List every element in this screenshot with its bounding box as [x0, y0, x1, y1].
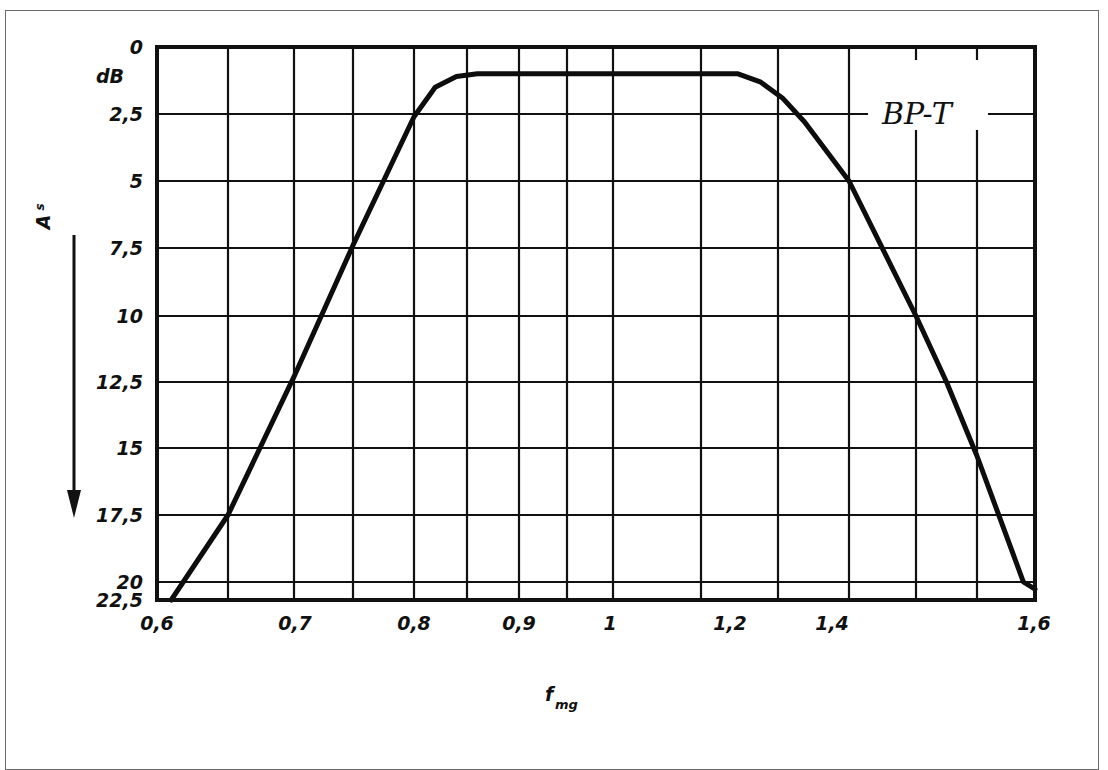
y-axis-label: A s — [32, 203, 54, 231]
x-tick-label: 0,8 — [397, 612, 431, 634]
y-tick-label: 0 — [130, 36, 143, 58]
x-axis-label-sub: mg — [555, 697, 578, 712]
y-direction-arrow-icon — [67, 235, 81, 518]
legend-label: BP-T — [881, 96, 954, 131]
y-tick-label: 7,5 — [109, 237, 143, 259]
y-tick-label: 5 — [130, 170, 143, 192]
x-tick-label: 0,6 — [140, 612, 174, 634]
curve-layer — [171, 74, 1035, 600]
y-tick-label: 12,5 — [96, 371, 143, 393]
x-tick-labels: 0,60,70,80,911,21,41,6 — [140, 612, 1051, 634]
y-tick-label: 15 — [117, 437, 143, 459]
y-tick-label: 22,5 — [96, 589, 143, 611]
x-tick-label: 1,6 — [1017, 612, 1051, 634]
x-tick-label: 0,7 — [278, 612, 312, 634]
x-tick-label: 1,4 — [815, 612, 849, 634]
x-tick-label: 1,2 — [713, 612, 747, 634]
legend: BP-T — [868, 60, 988, 131]
y-tick-labels: 02,557,51012,51517,52022,5 — [96, 36, 143, 611]
series-line-bp-t — [171, 74, 1035, 600]
y-axis-label-main: A — [32, 215, 54, 232]
y-unit-label: dB — [96, 65, 124, 87]
y-axis-label-sub: s — [33, 203, 47, 210]
x-tick-label: 0,9 — [502, 612, 536, 634]
y-tick-label: 10 — [117, 305, 143, 327]
x-tick-label: 1 — [603, 612, 616, 634]
y-tick-label: 2,5 — [109, 103, 143, 125]
x-axis-label: f mg — [545, 683, 578, 712]
y-tick-label: 17,5 — [96, 504, 143, 526]
